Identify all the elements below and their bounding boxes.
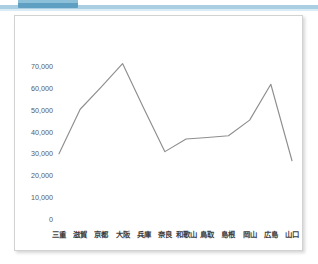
x-axis-tick-label: 京都 <box>94 230 109 239</box>
x-axis-tick-label: 大阪 <box>116 230 131 239</box>
x-axis-ticks: 三重滋賀京都大阪兵庫奈良和歌山鳥取島根岡山広島山口 <box>52 230 299 239</box>
line-chart: 010,00020,00030,00040,00050,00060,00070,… <box>15 16 302 250</box>
y-axis-tick-label: 0 <box>49 215 53 224</box>
y-axis-tick-label: 40,000 <box>31 128 53 137</box>
series-line-path <box>59 64 292 161</box>
x-axis-tick-label: 和歌山 <box>175 230 197 239</box>
x-axis-tick-label: 滋賀 <box>73 230 88 239</box>
x-axis-tick-label: 山口 <box>285 230 299 239</box>
y-axis-tick-label: 60,000 <box>31 84 53 93</box>
chart-plot-area: 010,00020,00030,00040,00050,00060,00070,… <box>15 16 302 250</box>
top-accent-rule-soft <box>0 9 318 11</box>
y-axis-tick-label: 20,000 <box>31 171 53 180</box>
window-top-chrome <box>0 0 318 13</box>
x-axis-tick-label: 島根 <box>221 230 236 239</box>
y-axis-tick-label: 70,000 <box>31 62 53 71</box>
y-axis-tick-label: 30,000 <box>31 149 53 158</box>
x-axis-tick-label: 岡山 <box>243 230 257 239</box>
x-axis-tick-label: 鳥取 <box>200 230 215 239</box>
x-axis-tick-label: 広島 <box>264 230 279 239</box>
y-axis-tick-label: 10,000 <box>31 193 53 202</box>
y-axis-tick-label: 50,000 <box>31 106 53 115</box>
x-axis-tick-label: 奈良 <box>157 230 173 239</box>
chart-card: 010,00020,00030,00040,00050,00060,00070,… <box>14 15 303 251</box>
x-axis-tick-label: 兵庫 <box>137 230 152 239</box>
x-axis-tick-label: 三重 <box>52 230 67 239</box>
top-tab-highlight <box>18 0 78 3</box>
y-axis-ticks: 010,00020,00030,00040,00050,00060,00070,… <box>31 62 53 223</box>
